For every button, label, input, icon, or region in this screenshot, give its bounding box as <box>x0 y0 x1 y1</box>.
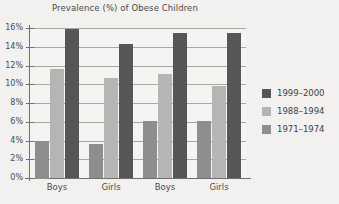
bar <box>50 69 64 178</box>
y-axis-tick-label: 6% <box>0 117 23 126</box>
y-axis-tick-label: 4% <box>0 136 23 145</box>
y-axis-tick-label: 10% <box>0 79 23 88</box>
y-axis-tick <box>26 66 34 67</box>
y-axis-tick-label: 0% <box>0 173 23 182</box>
chart-title: Prevalence (%) of Obese Children <box>0 3 250 13</box>
gridline <box>30 47 246 48</box>
y-axis-tick <box>26 178 34 179</box>
y-axis-tick <box>26 28 34 29</box>
y-axis-tick-label: 16% <box>0 23 23 32</box>
chart-legend: 1999–20001988–19941971–1974 <box>262 84 325 138</box>
bar <box>212 86 226 178</box>
y-axis-tick-label: 12% <box>0 61 23 70</box>
bar <box>143 121 157 178</box>
legend-item[interactable]: 1971–1974 <box>262 120 325 138</box>
legend-label: 1988–1994 <box>277 106 325 116</box>
bar <box>119 44 133 178</box>
y-axis-tick-label: 14% <box>0 42 23 51</box>
x-axis-tick-label: Girls <box>84 182 138 192</box>
x-axis-tick-label: Girls <box>192 182 246 192</box>
y-axis-tick-label: 2% <box>0 154 23 163</box>
bar <box>158 74 172 178</box>
bar <box>65 29 79 178</box>
x-axis-tick-label: Boys <box>30 182 84 192</box>
legend-swatch-icon <box>262 89 271 98</box>
bar <box>35 141 49 179</box>
bar <box>227 33 241 178</box>
y-axis-tick <box>26 103 34 104</box>
y-axis-tick <box>26 47 34 48</box>
y-axis-tick <box>26 122 34 123</box>
y-axis-tick <box>26 159 34 160</box>
legend-label: 1971–1974 <box>277 124 325 134</box>
x-axis-tick-label: Boys <box>138 182 192 192</box>
y-axis-tick <box>26 84 34 85</box>
gridline <box>30 66 246 67</box>
bar-chart: Prevalence (%) of Obese Children 16%14%1… <box>0 0 339 204</box>
x-axis-line <box>25 178 251 179</box>
y-axis-tick <box>26 141 34 142</box>
legend-swatch-icon <box>262 125 271 134</box>
gridline <box>30 28 246 29</box>
bar <box>89 144 103 178</box>
legend-item[interactable]: 1999–2000 <box>262 84 325 102</box>
bar <box>173 33 187 178</box>
bar <box>104 78 118 178</box>
legend-item[interactable]: 1988–1994 <box>262 102 325 120</box>
legend-label: 1999–2000 <box>277 88 325 98</box>
y-axis-tick-label: 8% <box>0 98 23 107</box>
bar <box>197 121 211 178</box>
legend-swatch-icon <box>262 107 271 116</box>
